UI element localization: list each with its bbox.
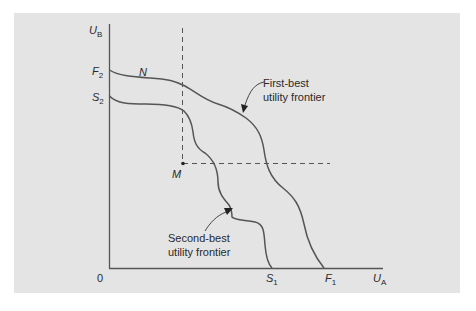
utility-frontier-diagram: UB F2 S2 N M First-best utility frontier… xyxy=(0,0,476,311)
second-best-annotation-line1: Second-best xyxy=(168,232,230,244)
label-f2: F2 xyxy=(92,65,104,80)
first-best-arrowhead xyxy=(241,104,248,113)
label-n: N xyxy=(139,66,147,78)
first-best-annotation-line1: First-best xyxy=(263,77,309,89)
first-best-annotation-line2: utility frontier xyxy=(263,91,326,103)
first-best-pointer-arrow xyxy=(245,82,264,105)
y-axis-label: UB xyxy=(89,24,102,39)
point-m xyxy=(181,162,185,166)
label-m: M xyxy=(172,168,182,180)
origin-label: 0 xyxy=(97,272,103,284)
second-best-annotation-line2: utility frontier xyxy=(168,246,231,258)
label-s1: S1 xyxy=(266,272,278,287)
label-s2: S2 xyxy=(92,91,104,106)
label-f1: F1 xyxy=(325,272,337,287)
x-axis-label: UA xyxy=(373,272,387,287)
second-best-pointer-arrow xyxy=(205,212,226,231)
